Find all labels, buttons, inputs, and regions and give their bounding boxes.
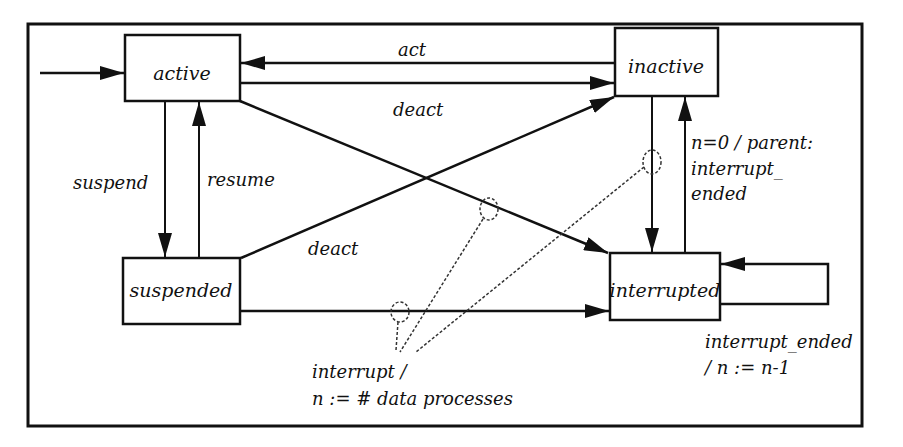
state-diagram: active inactive suspended interrupted [0, 0, 903, 447]
transition-interrupted-self-loop [721, 264, 828, 304]
label-deact-top: deact [393, 99, 444, 120]
state-interrupted[interactable]: interrupted [610, 253, 721, 320]
label-resume: resume [207, 169, 275, 190]
label-parent-line3: ended [691, 183, 747, 204]
label-parent-line1: n=0 / parent: [691, 132, 813, 153]
state-inactive-label: inactive [628, 55, 704, 77]
state-interrupted-label: interrupted [610, 279, 721, 301]
label-suspend: suspend [73, 172, 148, 193]
label-deact-mid: deact [308, 238, 359, 259]
label-self-line2: / n := n-1 [703, 357, 790, 378]
state-active-label: active [153, 62, 211, 84]
label-parent-line2: interrupt_ [691, 158, 783, 180]
label-act: act [398, 39, 427, 60]
state-suspended[interactable]: suspended [123, 258, 240, 324]
label-self-line1: interrupt_ended [705, 331, 853, 353]
state-inactive[interactable]: inactive [615, 28, 718, 96]
transition-deact-suspended-inactive [241, 97, 614, 258]
state-suspended-label: suspended [130, 279, 233, 301]
label-interrupt-line1: interrupt / [312, 361, 409, 382]
state-active[interactable]: active [125, 35, 240, 101]
label-interrupt-line2: n := # data processes [312, 388, 513, 409]
